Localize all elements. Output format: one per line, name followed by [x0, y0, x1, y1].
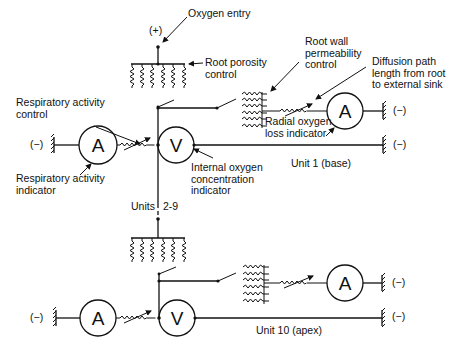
root-wall-resistor-bank	[242, 92, 267, 128]
respiratory-indicator-label: Respiratory activity indicator	[16, 173, 105, 196]
ammeter-letter: A	[339, 101, 352, 122]
negative-terminal-label: (−)	[393, 139, 406, 151]
diffusion-variable-resistor	[280, 281, 307, 284]
negative-terminal-label: (−)	[392, 277, 405, 289]
diffusion-path-label: Diffusion path length from root to exter…	[372, 56, 446, 91]
diffusion-variable-resistor	[280, 109, 307, 112]
porosity-switch	[159, 267, 176, 274]
svg-text:V: V	[171, 308, 184, 329]
unit-10: A A V	[53, 217, 385, 336]
unit-1-label: Unit 1 (base)	[291, 158, 351, 170]
porosity-resistor-bank	[130, 64, 186, 88]
root-wall-resistor-bank	[243, 265, 269, 304]
svg-text:V: V	[170, 135, 183, 156]
porosity-switch	[158, 100, 174, 107]
units-range-label: 2-9	[163, 201, 178, 213]
oxygen-entry-label: Oxygen entry	[188, 8, 250, 20]
ground-icon	[53, 307, 56, 326]
ground-icon	[383, 101, 386, 120]
root-wall-switch	[218, 273, 236, 281]
internal-oxygen-label: Internal oxygen concentration indicator	[191, 162, 263, 197]
svg-text:A: A	[92, 308, 105, 329]
negative-terminal-label: (−)	[30, 139, 43, 151]
negative-terminal-label: (−)	[392, 311, 405, 323]
positive-terminal-label: (+)	[149, 25, 162, 37]
radial-loss-label: Radial oxygen loss indicator	[265, 116, 332, 139]
porosity-resistor-bank	[130, 238, 186, 262]
negative-terminal-label: (−)	[30, 312, 43, 324]
ground-icon	[382, 273, 385, 292]
ground-icon	[51, 134, 54, 153]
ground-icon	[382, 308, 385, 327]
svg-text:A: A	[92, 135, 105, 156]
root-wall-label: Root wall permeability control	[305, 36, 362, 71]
unit-10-label: Unit 10 (apex)	[256, 325, 322, 337]
root-porosity-label: Root porosity control	[205, 57, 267, 80]
svg-text:A: A	[339, 273, 352, 294]
units-label: Units	[131, 201, 155, 213]
root-wall-switch	[217, 99, 236, 108]
negative-terminal-label: (−)	[393, 105, 406, 117]
respiratory-control-label: Respiratory activity control	[16, 97, 105, 120]
ground-icon	[383, 135, 386, 154]
